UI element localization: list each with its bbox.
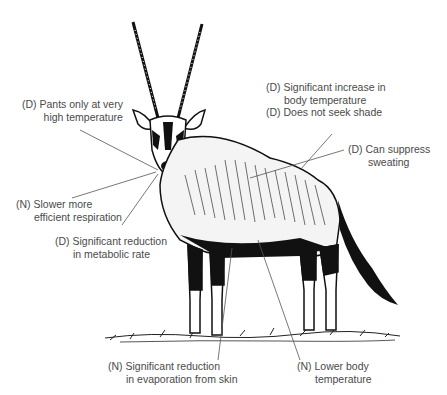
oryx-diagram: (D) Pants only at very high temperature … [0,0,447,395]
label-lower-temp: (N) Lower body temperature [297,360,372,385]
label-respiration: (N) Slower more efficient respiration [16,198,122,223]
ground-grass [105,328,400,342]
label-shade: (D) Does not seek shade [266,106,382,119]
label-metabolic: (D) Significant reduction in metabolic r… [55,235,167,260]
label-evaporation: (N) Significant reduction in evaporation… [108,360,237,385]
label-sweating: (D) Can suppress sweating [348,143,430,168]
right-ear [184,110,205,129]
legs [188,245,338,335]
label-pants: (D) Pants only at very high temperature [22,98,123,123]
tail [338,200,398,305]
horns [133,22,202,118]
label-body-temp-increase: (D) Significant increase in body tempera… [266,81,386,106]
